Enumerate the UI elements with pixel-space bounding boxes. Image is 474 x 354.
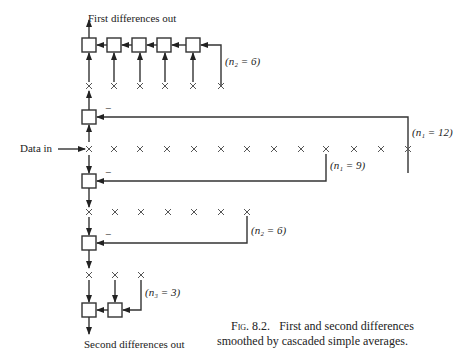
adder-box bbox=[82, 38, 96, 52]
n1-12-label: (n₁ = 12) bbox=[412, 126, 453, 138]
n3-label: (n₃ = 3) bbox=[145, 286, 180, 298]
figure-number: Fig. 8.2. bbox=[231, 319, 270, 333]
data-in-label: Data in bbox=[20, 142, 52, 154]
caption-line-1: First and second differences bbox=[279, 319, 414, 333]
minus-sign-3: − bbox=[105, 228, 111, 240]
n1-9-label: (n₁ = 9) bbox=[330, 159, 365, 171]
minus-sign-2: − bbox=[105, 166, 111, 178]
second-differences-out-label: Second differences out bbox=[84, 338, 185, 350]
n2-top-label: (n₂ = 6) bbox=[225, 55, 260, 67]
n2-mid-label: (n₂ = 6) bbox=[251, 224, 286, 236]
minus-sign-1: − bbox=[105, 102, 111, 114]
block-diagram bbox=[0, 0, 474, 354]
first-differences-out-label: First differences out bbox=[88, 12, 176, 24]
figure-caption: Fig. 8.2. First and second differences s… bbox=[217, 319, 472, 349]
caption-line-2: smoothed by cascaded simple averages. bbox=[217, 334, 472, 349]
